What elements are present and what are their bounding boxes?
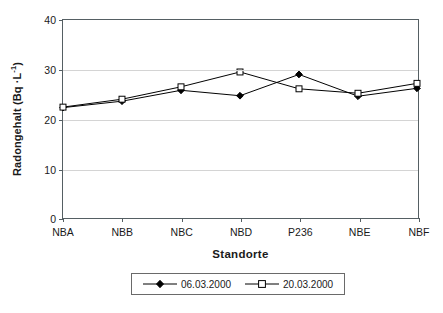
legend-item-series-1: 06.03.2000 bbox=[143, 279, 231, 290]
gridline bbox=[63, 120, 418, 121]
x-axis-tick-mark bbox=[63, 218, 64, 222]
y-axis-title-exponent: -1 bbox=[9, 66, 18, 73]
data-point-marker-square bbox=[60, 104, 66, 110]
x-axis-tick-label: NBD bbox=[230, 226, 252, 238]
data-point-marker-diamond bbox=[237, 92, 244, 99]
y-axis-tick-label: 10 bbox=[44, 164, 56, 176]
y-axis-tick-mark bbox=[59, 70, 63, 71]
x-axis-tick-mark bbox=[182, 218, 183, 222]
y-axis-tick-mark bbox=[59, 170, 63, 171]
data-point-marker-square bbox=[119, 96, 125, 102]
x-axis-tick-label: NBC bbox=[171, 226, 193, 238]
y-axis-tick-label: 20 bbox=[44, 114, 56, 126]
x-axis-tick-mark bbox=[300, 218, 301, 222]
gridline bbox=[63, 70, 418, 71]
data-point-marker-square bbox=[355, 90, 361, 96]
data-point-marker-diamond bbox=[296, 71, 303, 78]
y-axis-tick-label: 0 bbox=[50, 213, 56, 225]
y-axis-title: Radongehalt (Bq ·L-1) bbox=[8, 34, 26, 204]
y-axis-tick-label: 40 bbox=[44, 14, 56, 26]
x-axis-tick-label: NBA bbox=[52, 226, 74, 238]
y-axis-title-prefix: Radongehalt (Bq ·L bbox=[11, 73, 23, 176]
x-axis-tick-label: NBB bbox=[112, 226, 134, 238]
x-axis-tick-label: NBE bbox=[349, 226, 371, 238]
radon-line-chart: Radongehalt (Bq ·L-1) 010203040NBANBBNBC… bbox=[0, 0, 443, 313]
series-layer bbox=[63, 20, 418, 218]
legend-key-open-square bbox=[245, 279, 279, 289]
data-point-marker-square bbox=[414, 80, 420, 86]
x-axis-tick-mark bbox=[360, 218, 361, 222]
legend-item-series-2: 20.03.2000 bbox=[245, 279, 333, 290]
series-line bbox=[63, 74, 417, 107]
x-axis-tick-mark bbox=[241, 218, 242, 222]
data-point-marker-square bbox=[178, 84, 184, 90]
series-1 bbox=[60, 71, 421, 111]
legend-label-series-1: 06.03.2000 bbox=[181, 279, 231, 290]
y-axis-tick-mark bbox=[59, 20, 63, 21]
x-axis-tick-mark bbox=[122, 218, 123, 222]
series-2 bbox=[60, 69, 420, 110]
data-point-marker-square bbox=[296, 86, 302, 92]
x-axis-tick-label: NBF bbox=[409, 226, 430, 238]
y-axis-title-suffix: ) bbox=[11, 62, 23, 66]
legend-label-series-2: 20.03.2000 bbox=[283, 279, 333, 290]
x-axis-tick-mark bbox=[419, 218, 420, 222]
x-axis-title: Standorte bbox=[62, 248, 419, 260]
y-axis-tick-mark bbox=[59, 120, 63, 121]
gridline bbox=[63, 170, 418, 171]
plot-area: 010203040NBANBBNBCNBDP236NBENBF bbox=[62, 19, 419, 219]
chart-legend: 06.03.2000 20.03.2000 bbox=[131, 273, 345, 295]
y-axis-tick-label: 30 bbox=[44, 64, 56, 76]
legend-key-filled-diamond bbox=[143, 279, 177, 289]
x-axis-tick-label: P236 bbox=[288, 226, 313, 238]
